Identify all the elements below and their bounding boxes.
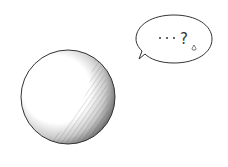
illustration-canvas: ? bbox=[0, 0, 228, 167]
sphere bbox=[21, 50, 115, 145]
question-mark: ? bbox=[180, 30, 188, 48]
